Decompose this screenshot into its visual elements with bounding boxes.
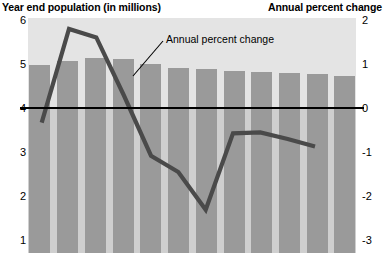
line-path xyxy=(42,29,315,210)
left-axis-tick: 3 xyxy=(2,147,26,158)
right-axis-tick: 2 xyxy=(362,15,384,26)
left-axis-tick: 4 xyxy=(2,103,26,114)
left-axis-tick: 1 xyxy=(2,235,26,246)
annotation-label: Annual percent change xyxy=(166,33,274,45)
right-axis-tick: -1 xyxy=(362,147,384,158)
left-axis-tick: 6 xyxy=(2,15,26,26)
left-axis-tick: 5 xyxy=(2,59,26,70)
left-axis-tick: 2 xyxy=(2,191,26,202)
right-axis-tick: -2 xyxy=(362,191,384,202)
right-axis-title: Annual percent change xyxy=(268,1,382,13)
chart-figure: Year end population (in millions) Annual… xyxy=(0,0,384,253)
right-axis-tick: 0 xyxy=(362,103,384,114)
chart-header: Year end population (in millions) Annual… xyxy=(0,0,384,16)
zero-reference-line xyxy=(20,107,364,109)
right-axis-tick: -3 xyxy=(362,235,384,246)
right-axis-tick: 1 xyxy=(362,59,384,70)
plot-area xyxy=(28,18,356,253)
left-axis-title: Year end population (in millions) xyxy=(2,1,161,13)
annual-percent-change-line xyxy=(28,18,356,253)
